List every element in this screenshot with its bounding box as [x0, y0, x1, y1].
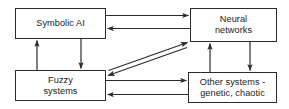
node-neural-networks-label: Neural networks	[213, 14, 254, 36]
node-symbolic-ai[interactable]: Symbolic AI	[15, 8, 106, 39]
node-other-systems-label: Other systems - genetic, chaotic	[198, 77, 268, 99]
node-neural-networks[interactable]: Neural networks	[190, 8, 277, 42]
node-fuzzy-systems-label: Fuzzy systems	[41, 75, 79, 97]
edge-neural-fuzzy-diagonal	[108, 48, 187, 76]
node-fuzzy-systems[interactable]: Fuzzy systems	[15, 70, 106, 101]
diagram-canvas: Symbolic AI Neural networks Fuzzy system…	[0, 0, 289, 109]
node-other-systems[interactable]: Other systems - genetic, chaotic	[188, 72, 277, 103]
node-symbolic-ai-label: Symbolic AI	[34, 18, 87, 29]
edge-fuzzy-neural-diagonal	[109, 43, 188, 71]
